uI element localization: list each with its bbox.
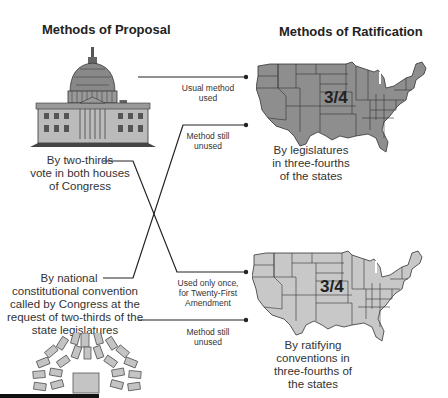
label-line: Used only once,: [168, 278, 248, 288]
label-line: By ratifying: [258, 339, 368, 352]
label-line: constitutional convention: [0, 285, 150, 298]
label-line: of Congress: [20, 180, 140, 193]
connector-label-once: Used only once, for Twenty-First Amendme…: [168, 278, 248, 308]
connector-label-unused-legislature: Method still unused: [168, 131, 248, 151]
label-line: three-fourths of: [258, 365, 368, 378]
fraction-label: 3/4: [320, 277, 344, 297]
label-line: Amendment: [168, 298, 248, 308]
decorative-bar: [0, 394, 99, 398]
label-line: of the states: [256, 170, 366, 183]
label-line: Method still: [168, 327, 248, 337]
label-line: for Twenty-First: [168, 288, 248, 298]
label-line: request of two-thirds of the: [0, 311, 150, 324]
ratification-conventions-label: By ratifying conventions in three-fourth…: [258, 339, 368, 391]
connector-label-unused-convention: Method still unused: [168, 327, 248, 347]
proposal-congress-label: By two-thirds vote in both houses of Con…: [20, 154, 140, 193]
label-line: unused: [168, 141, 248, 151]
connector-label-usual: Usual method used: [168, 83, 248, 103]
label-line: conventions in: [258, 352, 368, 365]
label-line: By national: [0, 272, 150, 285]
label-line: vote in both houses: [20, 167, 140, 180]
label-line: By two-thirds: [20, 154, 140, 167]
label-line: the states: [258, 378, 368, 391]
proposal-convention-label: By national constitutional convention ca…: [0, 272, 150, 337]
label-line: used: [168, 93, 248, 103]
us-map-legislatures: 3/4: [256, 60, 436, 156]
label-line: in three-fourths: [256, 157, 366, 170]
label-line: Usual method: [168, 83, 248, 93]
ratification-legislatures-label: By legislatures in three-fourths of the …: [256, 144, 366, 183]
label-line: unused: [168, 337, 248, 347]
us-map-conventions: 3/4: [252, 249, 432, 345]
capitol-building-icon: [30, 45, 156, 155]
fraction-label: 3/4: [324, 88, 348, 108]
convention-seating-icon: [28, 333, 146, 397]
label-line: Method still: [168, 131, 248, 141]
label-line: called by Congress at the: [0, 298, 150, 311]
label-line: By legislatures: [256, 144, 366, 157]
